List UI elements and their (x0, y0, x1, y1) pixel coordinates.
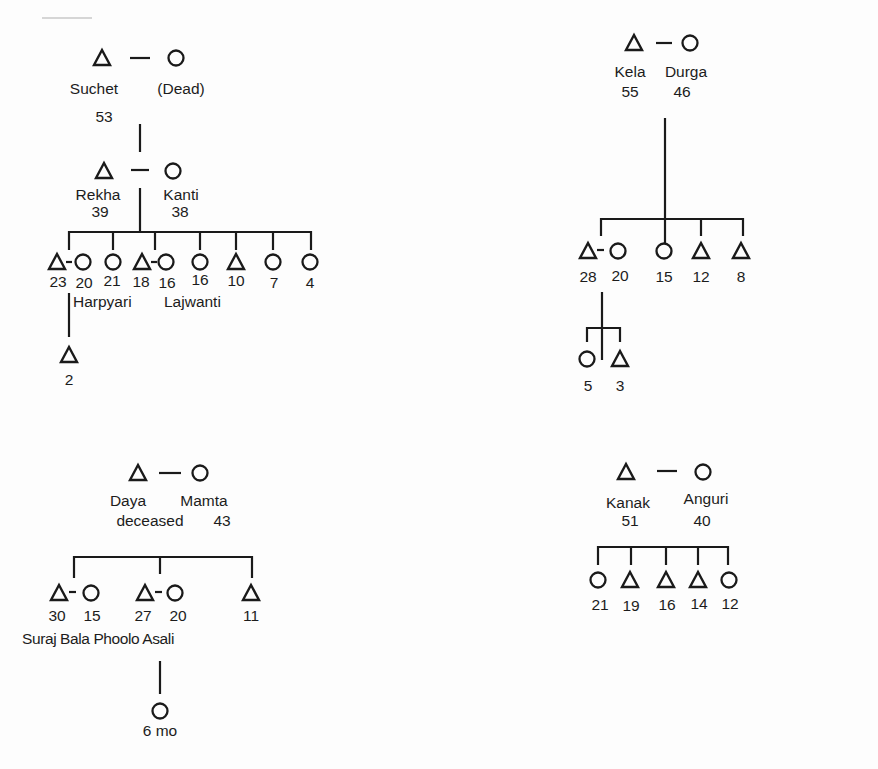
person-age: 14 (690, 595, 707, 612)
person-age: 8 (737, 268, 746, 285)
person-status-deceased: deceased (116, 512, 183, 529)
person-age: 16 (158, 274, 175, 291)
person-age: 53 (95, 108, 112, 125)
male-triangle-icon (612, 351, 628, 366)
person-name-kela: Kela (614, 63, 645, 80)
person-age: 6 mo (143, 722, 177, 739)
kinship-diagram-canvas (0, 0, 878, 769)
female-circle-icon (106, 255, 121, 270)
male-triangle-icon (693, 243, 709, 258)
male-triangle-icon (626, 35, 642, 50)
person-age: 10 (227, 272, 244, 289)
male-triangle-icon (690, 572, 706, 587)
female-circle-icon (722, 573, 737, 588)
female-circle-icon (591, 573, 606, 588)
male-triangle-icon (618, 464, 634, 479)
female-circle-icon (611, 244, 626, 259)
female-circle-icon (168, 586, 183, 601)
male-triangle-icon (134, 254, 150, 269)
person-age: 21 (103, 272, 120, 289)
female-circle-icon (193, 466, 208, 481)
family-kela (580, 35, 750, 367)
person-age: 20 (75, 274, 92, 291)
person-name-kanak: Kanak (606, 494, 650, 511)
person-name-harpyari: Harpyari (73, 293, 132, 310)
female-circle-icon (683, 36, 698, 51)
male-triangle-icon (243, 585, 259, 600)
person-age: 19 (622, 597, 639, 614)
female-circle-icon (169, 51, 184, 66)
male-triangle-icon (228, 254, 244, 269)
female-circle-icon (580, 352, 595, 367)
family-kanak (591, 464, 737, 588)
female-circle-icon (696, 465, 711, 480)
person-name-durga: Durga (665, 63, 707, 80)
person-age: 27 (134, 607, 151, 624)
person-age: 39 (91, 203, 108, 220)
person-age: 40 (693, 512, 710, 529)
person-age: 4 (306, 274, 315, 291)
person-age: 28 (579, 268, 596, 285)
female-circle-icon (153, 704, 168, 719)
person-status-dead: (Dead) (157, 80, 204, 97)
person-age: 30 (48, 607, 65, 624)
person-age: 23 (49, 273, 66, 290)
male-triangle-icon (137, 585, 153, 600)
female-circle-icon (266, 255, 281, 270)
person-age: 16 (658, 596, 675, 613)
person-age: 18 (132, 273, 149, 290)
male-triangle-icon (622, 572, 638, 587)
person-age: 21 (591, 596, 608, 613)
male-triangle-icon (96, 163, 112, 178)
person-age: 15 (83, 607, 100, 624)
person-name-anguri: Anguri (684, 490, 729, 507)
female-circle-icon (76, 255, 91, 270)
person-name-kanti: Kanti (163, 186, 198, 203)
person-age: 55 (621, 83, 638, 100)
male-triangle-icon (51, 585, 67, 600)
female-circle-icon (84, 586, 99, 601)
person-age: 51 (621, 512, 638, 529)
person-age: 12 (692, 268, 709, 285)
person-age: 20 (611, 267, 628, 284)
person-age: 3 (616, 377, 625, 394)
female-circle-icon (159, 255, 174, 270)
family-daya (51, 465, 259, 719)
person-age: 46 (673, 83, 690, 100)
spouse-names-row: Suraj Bala Phoolo Asali (22, 630, 174, 647)
person-age: 7 (270, 274, 279, 291)
female-circle-icon (303, 255, 318, 270)
female-circle-icon (193, 255, 208, 270)
male-triangle-icon (130, 465, 146, 480)
female-circle-icon (657, 244, 672, 259)
male-triangle-icon (733, 243, 749, 258)
person-age: 38 (171, 203, 188, 220)
male-triangle-icon (658, 572, 674, 587)
person-age: 12 (721, 595, 738, 612)
person-name-lajwanti: Lajwanti (164, 293, 221, 310)
person-name-daya: Daya (110, 492, 146, 509)
person-name-suchet: Suchet (70, 80, 118, 97)
person-age: 5 (584, 377, 593, 394)
person-age: 20 (169, 607, 186, 624)
person-age: 15 (655, 268, 672, 285)
female-circle-icon (166, 164, 181, 179)
person-age: 2 (65, 371, 74, 388)
male-triangle-icon (580, 243, 596, 258)
person-age: 11 (243, 607, 259, 624)
male-triangle-icon (94, 50, 110, 65)
person-age: 43 (213, 512, 230, 529)
male-triangle-icon (49, 254, 65, 269)
person-name-rekha: Rekha (76, 186, 121, 203)
person-name-mamta: Mamta (180, 492, 227, 509)
person-age: 16 (191, 271, 208, 288)
male-triangle-icon (61, 347, 77, 362)
